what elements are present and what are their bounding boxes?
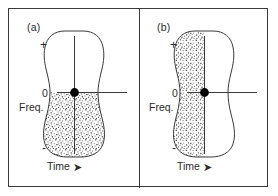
panel-b-time-text: Time — [177, 160, 200, 172]
panel-b-label: (b) — [157, 21, 170, 33]
panel-b-axis-plus-label: + — [170, 39, 177, 51]
panel-b-time-axis-label: Time➤ — [177, 161, 212, 172]
panel-b-frequency-axis-label: Freq. — [149, 102, 174, 113]
panel-a-axis-minus-label: - — [42, 142, 46, 154]
panel-a-axis-zero-label: 0 — [42, 88, 48, 99]
panel-b: (b) + 0 - Freq. Time➤ — [139, 9, 269, 188]
figure-frame: (a) + 0 - Freq. Time➤ — [8, 8, 268, 187]
panel-b-axis-minus-label: - — [172, 142, 176, 154]
panel-a-axis-plus-label: + — [40, 39, 47, 51]
panel-a-label: (a) — [27, 21, 40, 33]
origin-dot-marker — [70, 88, 79, 97]
panel-b-axis-zero-label: 0 — [172, 88, 178, 99]
panel-a: (a) + 0 - Freq. Time➤ — [9, 9, 139, 188]
time-arrow-icon: ➤ — [203, 162, 212, 173]
time-arrow-icon: ➤ — [73, 162, 82, 173]
figure-root: (a) + 0 - Freq. Time➤ — [0, 0, 278, 196]
panel-a-time-axis-label: Time➤ — [47, 161, 82, 172]
panel-a-time-text: Time — [47, 160, 70, 172]
origin-dot-marker — [200, 88, 209, 97]
panel-a-frequency-axis-label: Freq. — [19, 102, 44, 113]
